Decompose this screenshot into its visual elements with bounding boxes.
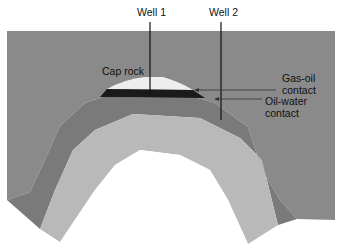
oil-layer [100, 89, 205, 98]
well-2-label: Well 2 [209, 7, 238, 18]
anticline-diagram [0, 0, 340, 252]
oil-water-label-line1: Oil-water [265, 96, 307, 107]
well-1-label: Well 1 [137, 7, 166, 18]
gas-oil-label-line1: Gas-oil [282, 73, 315, 84]
oil-water-label-line2: contact [265, 108, 299, 119]
cap-rock-label: Cap rock [102, 66, 144, 77]
